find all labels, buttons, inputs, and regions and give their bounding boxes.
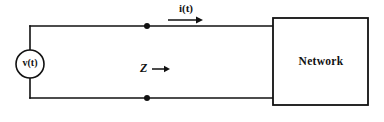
voltage-source-label: v(t) [23,58,38,68]
arrow-right-icon-impedance [164,66,170,72]
network-block-label: Network [299,56,344,68]
circuit-diagram: i(t) Z v(t) Network [0,0,384,122]
terminal-node-dot-icon-top [144,23,150,29]
arrow-right-icon-current [196,17,203,24]
current-label: i(t) [179,3,193,14]
impedance-label: Z [140,62,147,74]
terminal-node-dot-icon-bottom [144,95,150,101]
